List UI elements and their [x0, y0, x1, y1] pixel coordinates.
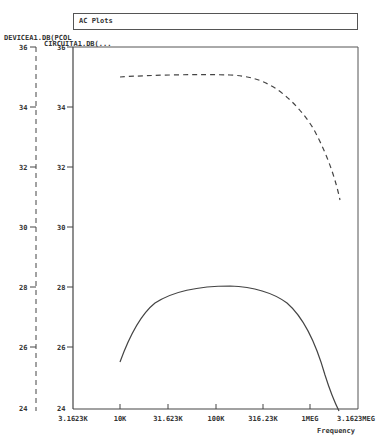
- x-tick-label: 3.1623K: [58, 415, 88, 423]
- x-tick-label: 3.1623MEG: [337, 415, 375, 423]
- plot-frame: [73, 47, 358, 409]
- y-tick-solid-label: 32: [57, 164, 65, 172]
- x-tick-label: 316.23K: [248, 415, 278, 423]
- x-tick-label: 31.623K: [153, 415, 183, 423]
- x-tick-label: 10K: [114, 415, 127, 423]
- y-tick-solid-label: 24: [57, 405, 65, 413]
- y-tick-solid-label: 30: [57, 224, 65, 232]
- series-circuitA1-line: [120, 286, 339, 411]
- x-tick-label: 1MEG: [302, 415, 319, 423]
- ac-plot-chart: 36 34 32 30 28 26 24 36 34 32 30 28 26 2…: [0, 0, 379, 444]
- x-axis-label: Frequency: [317, 427, 356, 435]
- series-deviceA1-line: [120, 75, 340, 200]
- y-ticks-solid: 36 34 32 30 28 26 24: [57, 44, 73, 413]
- y-tick-dashed-label: 34: [19, 104, 27, 112]
- y-tick-dashed-label: 36: [19, 44, 27, 52]
- y-tick-dashed-label: 30: [19, 224, 27, 232]
- y-tick-solid-label: 34: [57, 104, 65, 112]
- y-tick-dashed-label: 28: [19, 284, 27, 292]
- y-tick-solid-label: 26: [57, 344, 65, 352]
- y-tick-dashed-label: 26: [19, 344, 27, 352]
- y-tick-dashed-label: 24: [19, 405, 27, 413]
- y-tick-solid-label: 28: [57, 284, 65, 292]
- x-tick-label: 100K: [208, 415, 226, 423]
- y-ticks-dashed: 36 34 32 30 28 26 24: [19, 44, 36, 413]
- y-tick-dashed-label: 32: [19, 164, 27, 172]
- legend-series-2: CIRCUITA1.DB(...: [44, 40, 111, 48]
